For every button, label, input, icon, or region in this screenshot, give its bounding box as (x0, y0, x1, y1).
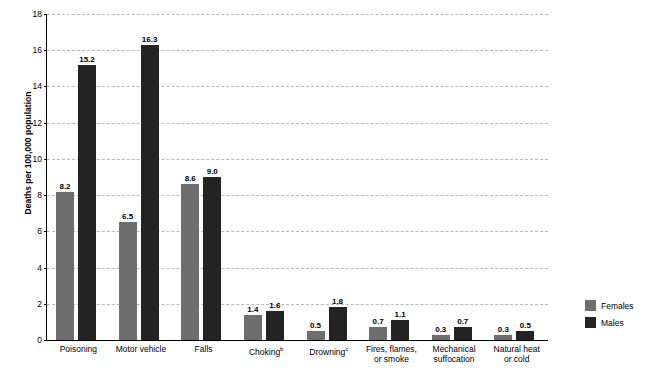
bar-males: 16.3 (141, 45, 159, 340)
y-tick-mark (44, 340, 47, 341)
bar-value-label: 1.6 (269, 301, 280, 310)
bar-males: 1.1 (391, 320, 409, 340)
chart-container: Deaths per 100,000 population 0246810121… (0, 0, 651, 385)
y-tick-label: 18 (33, 9, 42, 19)
bar-group: 0.51.8Drowningc (298, 14, 361, 340)
bar-value-label: 1.4 (247, 305, 258, 314)
bar-group: 0.30.7Mechanicalsuffocation (423, 14, 486, 340)
bar-group: 8.69.0Falls (172, 14, 235, 340)
bar-value-label: 9.0 (207, 167, 218, 176)
bar-females: 6.5 (119, 222, 137, 340)
y-tick-label: 12 (33, 118, 42, 128)
bar-value-label: 16.3 (142, 35, 158, 44)
bar-value-label: 0.5 (520, 321, 531, 330)
legend-label: Males (601, 318, 624, 328)
bar-males: 0.7 (454, 327, 472, 340)
bar-value-label: 1.1 (395, 310, 406, 319)
y-tick-label: 2 (37, 299, 42, 309)
bar-value-label: 0.7 (373, 317, 384, 326)
bar-group: 8.215.2Poisoning (47, 14, 110, 340)
legend-item: Females (585, 300, 634, 311)
bar-females: 0.3 (494, 335, 512, 340)
bar-value-label: 0.5 (310, 321, 321, 330)
legend-swatch (585, 300, 596, 311)
plot-area: 024681012141618 8.215.2Poisoning6.516.3M… (46, 14, 548, 341)
bar-value-label: 0.3 (498, 325, 509, 334)
y-axis-title: Deaths per 100,000 population (23, 63, 33, 243)
legend-swatch (585, 317, 596, 328)
legend-label: Females (601, 301, 634, 311)
bar-groups: 8.215.2Poisoning6.516.3Motor vehicle8.69… (47, 14, 548, 340)
x-axis-label: Natural heator cold (474, 344, 560, 364)
y-tick-label: 4 (37, 263, 42, 273)
bar-females: 0.5 (307, 331, 325, 340)
bar-value-label: 8.2 (59, 182, 70, 191)
bar-value-label: 0.3 (435, 325, 446, 334)
bar-value-label: 0.7 (457, 317, 468, 326)
bar-value-label: 15.2 (79, 55, 95, 64)
bar-females: 8.2 (56, 192, 74, 341)
y-tick-label: 10 (33, 154, 42, 164)
bar-females: 8.6 (181, 184, 199, 340)
bar-value-label: 8.6 (185, 174, 196, 183)
bar-females: 1.4 (244, 315, 262, 340)
bar-males: 0.5 (516, 331, 534, 340)
bar-group: 0.30.5Natural heator cold (485, 14, 548, 340)
bar-group: 1.41.6Chokingb (235, 14, 298, 340)
y-tick-label: 14 (33, 81, 42, 91)
bar-value-label: 6.5 (122, 212, 133, 221)
y-tick-label: 6 (37, 226, 42, 236)
bar-males: 15.2 (78, 65, 96, 340)
bar-females: 0.7 (369, 327, 387, 340)
bar-group: 0.71.1Fires, flames,or smoke (360, 14, 423, 340)
bar-value-label: 1.8 (332, 297, 343, 306)
bar-group: 6.516.3Motor vehicle (110, 14, 173, 340)
bar-males: 9.0 (203, 177, 221, 340)
y-tick-label: 16 (33, 45, 42, 55)
legend-item: Males (585, 317, 634, 328)
y-tick-label: 8 (37, 190, 42, 200)
chart-legend: FemalesMales (585, 300, 634, 334)
bar-males: 1.8 (329, 307, 347, 340)
bar-males: 1.6 (266, 311, 284, 340)
bar-females: 0.3 (432, 335, 450, 340)
